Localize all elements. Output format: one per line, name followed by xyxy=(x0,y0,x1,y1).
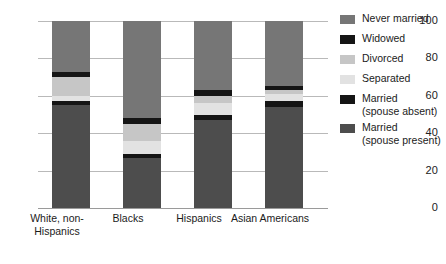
bar-segment-hispanics-1 xyxy=(194,115,232,121)
bar-segment-blacks-1 xyxy=(123,154,161,158)
bar-segment-white-non-hispanics-3 xyxy=(52,77,90,96)
bar-segment-asian-americans-0 xyxy=(265,107,303,208)
stacked-bar-chart: 100 80 60 40 20 0 White, non- Hispanics … xyxy=(0,0,446,264)
bar-segment-white-non-hispanics-2 xyxy=(52,96,90,102)
y-tick-label-0: 0 xyxy=(408,202,438,213)
bar-segment-hispanics-4 xyxy=(194,90,232,96)
legend-swatch-icon-1 xyxy=(340,35,355,44)
legend-item-4[interactable]: Married (spouse absent) xyxy=(340,92,444,118)
bar-segment-blacks-0 xyxy=(123,158,161,208)
bar-segment-asian-americans-3 xyxy=(265,90,303,94)
legend-label-1: Widowed xyxy=(362,32,444,45)
legend-swatch-icon-0 xyxy=(340,15,355,24)
x-tick-label-asian-americans: Asian Americans xyxy=(222,212,318,225)
bar-blacks xyxy=(123,21,161,208)
chart-legend: Never marriedWidowedDivorcedSeparatedMar… xyxy=(340,12,444,150)
y-tick-label-20: 20 xyxy=(408,165,438,176)
legend-item-1[interactable]: Widowed xyxy=(340,32,444,49)
bar-segment-hispanics-2 xyxy=(194,103,232,114)
legend-item-0[interactable]: Never married xyxy=(340,12,444,29)
bar-segment-asian-americans-1 xyxy=(265,101,303,107)
legend-label-5: Married (spouse present) xyxy=(362,121,444,147)
bar-segment-asian-americans-4 xyxy=(265,86,303,90)
bar-hispanics xyxy=(194,21,232,208)
legend-item-2[interactable]: Divorced xyxy=(340,52,444,69)
legend-swatch-icon-2 xyxy=(340,55,355,64)
plot-area xyxy=(38,21,328,208)
bar-segment-hispanics-0 xyxy=(194,120,232,208)
bar-segment-blacks-5 xyxy=(123,21,161,118)
legend-label-4: Married (spouse absent) xyxy=(362,92,444,118)
gridline-0 xyxy=(38,208,328,209)
legend-swatch-icon-5 xyxy=(340,124,355,133)
legend-label-3: Separated xyxy=(362,72,444,85)
bar-asian-americans xyxy=(265,21,303,208)
bar-segment-white-non-hispanics-0 xyxy=(52,105,90,208)
legend-swatch-icon-4 xyxy=(340,95,355,104)
bar-segment-hispanics-5 xyxy=(194,21,232,90)
legend-item-5[interactable]: Married (spouse present) xyxy=(340,121,444,147)
bar-segment-asian-americans-5 xyxy=(265,21,303,86)
bar-segment-asian-americans-2 xyxy=(265,94,303,101)
legend-label-2: Divorced xyxy=(362,52,444,65)
legend-swatch-icon-3 xyxy=(340,75,355,84)
legend-item-3[interactable]: Separated xyxy=(340,72,444,89)
legend-label-0: Never married xyxy=(362,12,444,25)
bar-segment-blacks-3 xyxy=(123,124,161,141)
bar-segment-hispanics-3 xyxy=(194,96,232,103)
bar-segment-blacks-2 xyxy=(123,141,161,154)
bar-segment-white-non-hispanics-1 xyxy=(52,101,90,105)
bar-white-non-hispanics xyxy=(52,21,90,208)
bar-segment-blacks-4 xyxy=(123,118,161,124)
bar-segment-white-non-hispanics-4 xyxy=(52,72,90,78)
bar-segment-white-non-hispanics-5 xyxy=(52,21,90,71)
